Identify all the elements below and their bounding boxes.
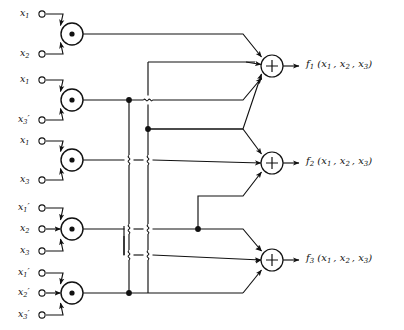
wire-t6-and3: [46, 169, 63, 181]
terminal-x1-a[interactable]: [39, 11, 45, 17]
terminal-x1p-a[interactable]: [39, 205, 45, 211]
junction-dot-and2-out: [126, 97, 132, 103]
and-gate-2[interactable]: [61, 89, 83, 111]
wire-and5-out: [83, 260, 261, 293]
wire-busb-sum3-mid: [124, 236, 261, 260]
adder-gate-1[interactable]: [261, 55, 283, 77]
wire-and2-out: [83, 78, 262, 101]
wire-and1-sum1: [83, 34, 262, 57]
terminal-x3-a[interactable]: [39, 177, 45, 183]
wire-t9-and4: [46, 239, 63, 251]
output-label-f1: f1 (x1 , x2 , x3): [306, 59, 372, 69]
wire-and3-sum2: [83, 160, 261, 163]
wire-sum2-top: [243, 129, 262, 154]
circuit-diagram-canvas: x1 x2 x1 x3′ x1 x3 x1′ x2 x3 x1′ x2′ x3′…: [0, 0, 404, 330]
wire-sum3-top: [148, 236, 262, 251]
terminal-x3-b[interactable]: [39, 248, 45, 254]
and-gate-5[interactable]: [61, 282, 83, 304]
wire-busa-sum3-bottom: [243, 270, 262, 293]
junction-dot-and4-tap: [195, 226, 201, 232]
wire-and4-out: [83, 172, 262, 251]
junction-dot-busb-mid: [145, 126, 151, 132]
adder-gate-2[interactable]: [261, 152, 283, 174]
input-label-x2-b: x2: [20, 223, 30, 233]
input-label-x1-c: x1: [20, 135, 30, 145]
terminal-x2-b[interactable]: [39, 226, 45, 232]
input-label-x1-a: x1: [20, 8, 30, 18]
input-label-x3-a: x3: [20, 174, 30, 184]
wire-t10-and5: [46, 273, 63, 284]
input-terminals-layer: [39, 11, 45, 318]
input-label-x3-b: x3: [20, 245, 30, 255]
adder-gate-3[interactable]: [261, 249, 283, 271]
terminal-x2p-a[interactable]: [39, 290, 45, 296]
output-label-f3: f3 (x1 , x2 , x3): [306, 253, 372, 263]
wire-busb-tap-sum1: [148, 74, 262, 129]
bus-line-a: [128, 100, 130, 293]
wire-t7-and4: [46, 208, 63, 220]
wire-t2-and1: [46, 43, 63, 55]
wire-t12-and5: [46, 303, 63, 315]
junction-dot-and5-out: [126, 290, 132, 296]
terminal-x1p-b[interactable]: [39, 270, 45, 276]
adder-gates-layer: [261, 55, 283, 271]
terminal-x3p-a[interactable]: [39, 117, 45, 123]
and-gate-4[interactable]: [61, 218, 83, 240]
input-label-x3-prime-b: x3′: [18, 309, 30, 319]
wire-t4-and2: [46, 109, 63, 121]
input-label-x2-prime-a: x2′: [18, 287, 30, 297]
terminal-x3p-b[interactable]: [39, 312, 45, 318]
output-label-f2: f2 (x1 , x2 , x3): [306, 156, 372, 166]
junction-dots-layer: [126, 97, 201, 296]
input-label-x3-prime-a: x3′: [18, 114, 30, 124]
terminal-x2-a[interactable]: [39, 51, 45, 57]
input-label-x1-prime-b: x1′: [18, 267, 30, 277]
and-gate-3[interactable]: [61, 149, 83, 171]
wire-t1-and1: [46, 14, 63, 26]
input-label-x2-a: x2: [20, 48, 30, 58]
bus-line-b: [147, 62, 255, 293]
wire-t5-and3: [46, 141, 63, 152]
terminal-x1-c[interactable]: [39, 138, 45, 144]
wire-t3-and2: [46, 80, 63, 92]
terminal-x1-b[interactable]: [39, 77, 45, 83]
input-label-x1-prime-a: x1′: [18, 202, 30, 212]
and-gate-1[interactable]: [61, 23, 83, 45]
wire-left-elbow-255: [124, 234, 144, 255]
input-label-x1-b: x1: [20, 74, 30, 84]
and-gates-layer: [61, 23, 83, 304]
